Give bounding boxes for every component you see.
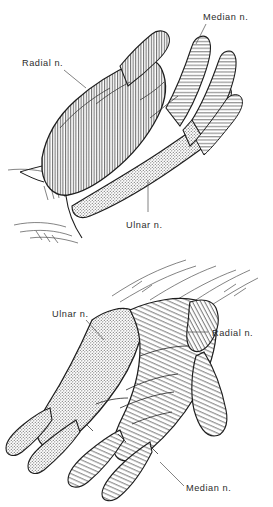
anatomical-figure-page: Radial n. Median n. Ulnar n. bbox=[0, 0, 273, 507]
label-radial-dorsal: Radial n. bbox=[22, 58, 63, 68]
label-median-dorsal: Median n. bbox=[203, 12, 248, 22]
label-ulnar-palmar: Ulnar n. bbox=[52, 309, 89, 319]
label-median-palmar: Median n. bbox=[186, 483, 231, 493]
label-ulnar-dorsal: Ulnar n. bbox=[126, 220, 163, 230]
hand-nerve-distribution-figure: Radial n. Median n. Ulnar n. bbox=[0, 0, 273, 507]
label-radial-palmar: Radial n. bbox=[212, 328, 253, 338]
